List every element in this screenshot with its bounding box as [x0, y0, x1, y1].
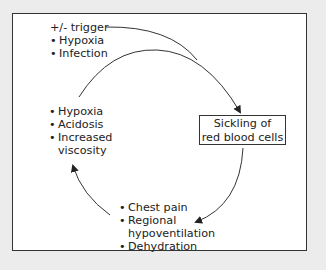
left-item: Increased — [49, 131, 112, 144]
trigger-heading: +/- trigger — [50, 21, 109, 34]
box-line-1: Sickling of — [200, 117, 285, 131]
bottom-item-continuation: hypoventilation — [119, 227, 215, 240]
left-node: Hypoxia Acidosis Increased viscosity — [49, 105, 112, 157]
bottom-node: Chest pain Regional hypoventilation Dehy… — [119, 201, 215, 253]
box-line-2: red blood cells — [200, 131, 285, 145]
bottom-item: Chest pain — [119, 201, 215, 214]
trigger-arrow — [106, 27, 197, 60]
bottom-item: Dehydration — [119, 240, 215, 253]
trigger-item: Infection — [50, 47, 109, 60]
left-item: Hypoxia — [49, 105, 112, 118]
trigger-item: Hypoxia — [50, 34, 109, 47]
left-item-continuation: viscosity — [49, 144, 112, 157]
left-item: Acidosis — [49, 118, 112, 131]
bottom-item: Regional — [119, 214, 215, 227]
trigger-node: +/- trigger Hypoxia Infection — [50, 21, 109, 60]
sickling-box: Sickling of red blood cells — [199, 115, 286, 145]
arc-bottom-to-left — [73, 166, 110, 215]
